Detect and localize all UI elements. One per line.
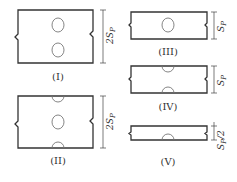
panel-i: 2SP (I) xyxy=(15,10,117,82)
panel-iv-half-hole-top xyxy=(162,66,174,72)
panel-iv-dimension-label: SP xyxy=(216,75,228,86)
panel-iv-half-hole-bottom xyxy=(162,87,174,93)
panel-ii-dimension-label: 2SP xyxy=(105,113,117,131)
panel-v-dimension-label: SP/2 xyxy=(216,130,228,150)
panel-ii-strip xyxy=(15,96,93,148)
panel-iii-strip xyxy=(129,12,207,39)
panel-ii-label: (II) xyxy=(50,155,66,166)
panel-iv: SP (IV) xyxy=(129,66,228,112)
panel-v-strip xyxy=(129,126,207,140)
panel-iii-hole xyxy=(162,18,174,32)
panel-iv-label: (IV) xyxy=(159,101,178,112)
panel-ii-half-hole-bottom xyxy=(52,142,64,148)
panel-ii-hole-center xyxy=(52,115,64,129)
panel-i-dimension-label: 2SP xyxy=(105,27,117,45)
diagram-canvas: 2SP (I) 2SP (II) SP (III) SP (IV) xyxy=(0,0,237,182)
panel-v-label: (V) xyxy=(160,156,175,167)
panel-v: SP/2 (V) xyxy=(129,122,228,167)
panel-i-label: (I) xyxy=(52,71,64,82)
panel-iii-dimension-label: SP xyxy=(216,21,228,32)
panel-iv-strip xyxy=(129,66,207,93)
panel-ii-half-hole-top xyxy=(52,96,64,102)
panel-iii-label: (III) xyxy=(158,46,178,57)
panel-i-hole-top xyxy=(52,18,64,32)
panel-v-half-hole-bottom xyxy=(162,134,174,140)
panel-iii: SP (III) xyxy=(129,12,228,57)
panel-ii: 2SP (II) xyxy=(15,96,117,166)
panel-i-hole-bottom xyxy=(52,43,64,57)
